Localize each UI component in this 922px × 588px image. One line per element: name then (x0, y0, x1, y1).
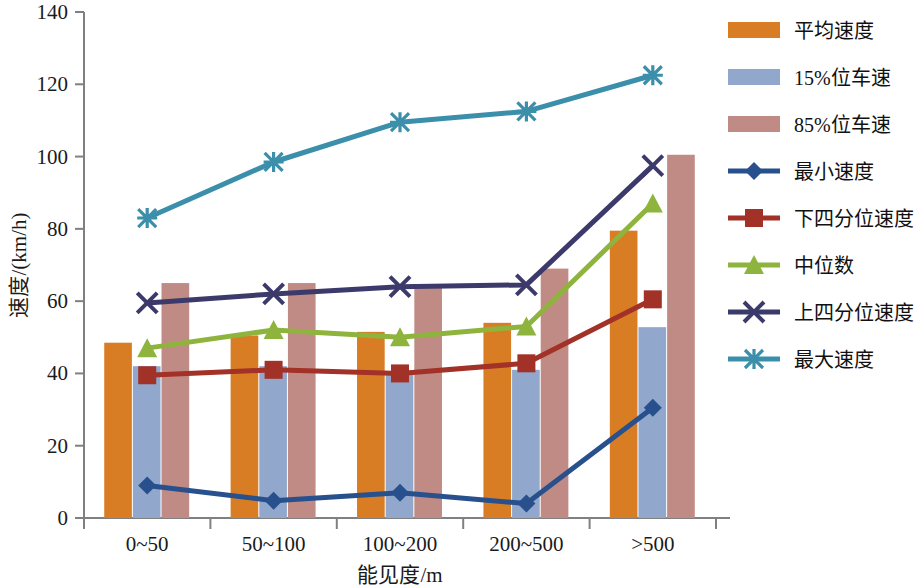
marker-asterisk (516, 101, 536, 121)
marker-square (391, 364, 409, 382)
y-tick-label: 140 (37, 0, 69, 24)
legend-label: 上四分位速度 (794, 302, 914, 324)
line-series (137, 65, 663, 228)
legend-label: 85%位车速 (794, 114, 891, 136)
legend-label: 15%位车速 (794, 67, 891, 89)
x-axis-title: 能见度/m (357, 563, 442, 587)
marker-asterisk (137, 208, 157, 228)
legend-label: 最小速度 (794, 161, 874, 183)
bar (133, 366, 161, 518)
legend-swatch (728, 22, 780, 38)
y-tick-label: 20 (47, 434, 68, 458)
marker-diamond (745, 162, 763, 180)
legend-swatch (728, 116, 780, 132)
legend-item[interactable]: 下四分位速度 (728, 208, 914, 230)
y-tick-label: 100 (37, 145, 69, 169)
legend-label: 最大速度 (794, 349, 874, 371)
bar (610, 231, 638, 518)
x-tick-label: 100~200 (363, 532, 437, 556)
y-tick-label: 80 (47, 217, 68, 241)
x-tick-label: >500 (631, 532, 674, 556)
bar (414, 285, 442, 518)
legend-item[interactable]: 中位数 (728, 255, 854, 277)
bar (288, 283, 316, 518)
marker-square (644, 290, 662, 308)
y-tick-label: 40 (47, 361, 68, 385)
bar (162, 283, 190, 518)
x-tick-label: 200~500 (489, 532, 563, 556)
legend-item[interactable]: 最大速度 (728, 349, 874, 371)
marker-asterisk (643, 65, 663, 85)
line-series (137, 156, 663, 313)
y-tick-label: 60 (47, 289, 68, 313)
x-tick-label: 50~100 (242, 532, 306, 556)
bar (104, 343, 132, 518)
bar (638, 327, 666, 518)
marker-triangle (643, 194, 663, 213)
y-axis-title: 速度/(km/h) (7, 213, 31, 318)
bar (357, 332, 385, 518)
marker-x (643, 156, 663, 176)
marker-asterisk (390, 112, 410, 132)
legend-label: 下四分位速度 (794, 208, 914, 230)
bar (483, 323, 511, 518)
y-tick-label: 120 (37, 72, 69, 96)
bar (667, 155, 695, 518)
legend-item[interactable]: 上四分位速度 (728, 302, 914, 324)
marker-square (745, 209, 763, 227)
legend-item[interactable]: 15%位车速 (728, 67, 891, 89)
marker-square (517, 354, 535, 372)
legend: 平均速度15%位车速85%位车速最小速度下四分位速度中位数上四分位速度最大速度 (728, 20, 914, 371)
legend-label: 中位数 (794, 255, 854, 277)
legend-item[interactable]: 85%位车速 (728, 114, 891, 136)
marker-square (138, 366, 156, 384)
speed-visibility-chart: 0204060801001201400~5050~100100~200200~5… (0, 0, 922, 588)
legend-swatch (728, 69, 780, 85)
marker-asterisk (744, 349, 764, 369)
series-path (147, 75, 653, 218)
legend-item[interactable]: 平均速度 (728, 20, 874, 42)
y-tick-label: 0 (58, 506, 69, 530)
legend-item[interactable]: 最小速度 (728, 161, 874, 183)
marker-square (265, 361, 283, 379)
bar (231, 335, 259, 518)
series-path (147, 204, 653, 349)
marker-asterisk (264, 152, 284, 172)
x-tick-label: 0~50 (126, 532, 169, 556)
legend-label: 平均速度 (794, 20, 874, 42)
chart-container: 0204060801001201400~5050~100100~200200~5… (0, 0, 922, 588)
